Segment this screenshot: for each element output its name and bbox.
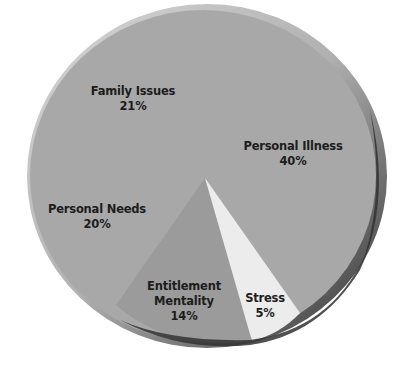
label-personal-illness-name: Personal Illness (243, 139, 342, 154)
label-entitlement-line1: Entitlement (147, 279, 221, 294)
label-entitlement-mentality: Entitlement Mentality 14% (147, 279, 221, 324)
label-personal-illness: Personal Illness 40% (243, 139, 342, 169)
label-personal-needs-name: Personal Needs (48, 202, 146, 217)
label-personal-illness-pct: 40% (243, 154, 342, 169)
label-stress-name: Stress (245, 291, 285, 306)
label-stress-pct: 5% (245, 306, 285, 321)
label-entitlement-line2: Mentality (147, 294, 221, 309)
label-family-issues-pct: 21% (91, 99, 176, 114)
label-personal-needs-pct: 20% (48, 217, 146, 232)
label-entitlement-pct: 14% (147, 309, 221, 324)
label-personal-needs: Personal Needs 20% (48, 202, 146, 232)
label-stress: Stress 5% (245, 291, 285, 321)
label-family-issues-name: Family Issues (91, 84, 176, 99)
label-family-issues: Family Issues 21% (91, 84, 176, 114)
